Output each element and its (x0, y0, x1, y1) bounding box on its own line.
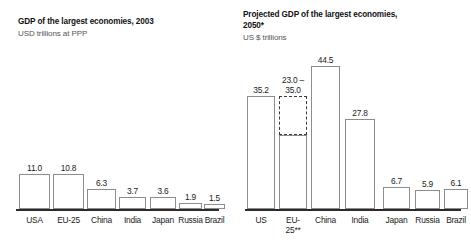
bar-value-label: 27.8 (336, 108, 384, 118)
chart-panel-left: GDP of the largest economies, 2003 USD t… (0, 0, 235, 246)
bar (179, 203, 202, 209)
bar (383, 187, 410, 209)
bar (415, 190, 440, 209)
bar (279, 135, 307, 209)
bar-value-label: 23.0 –35.0 (269, 75, 317, 95)
bars-layer-left: 11.0USA10.8EU-256.3China3.7India3.6Japan… (0, 0, 235, 246)
bar (247, 96, 275, 209)
plot-area-left: 11.0USA10.8EU-256.3China3.7India3.6Japan… (0, 0, 235, 246)
bar-value-label: 10.8 (45, 163, 93, 173)
bar (19, 174, 50, 209)
bar-value-label: 1.5 (191, 193, 239, 203)
category-label: Brazil (191, 215, 239, 225)
chart-panel-right: Projected GDP of the largest economies, … (235, 0, 471, 246)
bar (311, 66, 340, 209)
category-label: Brazil (432, 215, 471, 225)
bar-value-label: 6.1 (432, 178, 471, 188)
bar (444, 189, 468, 209)
bar (119, 197, 146, 209)
bar (204, 204, 225, 209)
bar-value-label: 44.5 (302, 55, 350, 65)
bars-layer-right: 35.2US23.0 –35.0EU-25**44.5China27.8Indi… (235, 0, 471, 246)
bar-range-dashed (279, 96, 307, 135)
plot-area-right: 35.2US23.0 –35.0EU-25**44.5China27.8Indi… (235, 0, 471, 246)
bar (345, 119, 375, 209)
